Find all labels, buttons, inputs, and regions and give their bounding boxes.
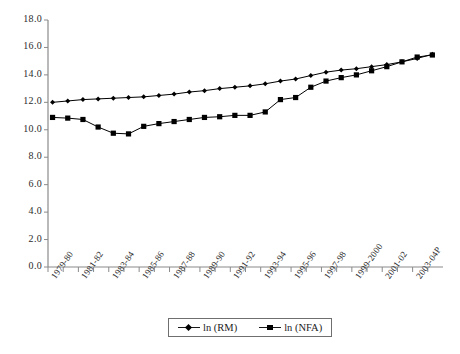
chart-legend: ln (RM) ln (NFA): [168, 318, 332, 337]
data-point-marker: [156, 121, 161, 126]
data-point-marker: [217, 114, 222, 119]
data-point-marker: [247, 113, 252, 118]
data-point-marker: [232, 113, 237, 118]
data-point-marker: [111, 131, 116, 136]
data-point-marker: [96, 96, 101, 101]
data-point-marker: [187, 117, 192, 122]
chart-container: 0.02.04.06.08.010.012.014.016.018.0 1979…: [0, 0, 460, 354]
y-tick-label: 6.0: [0, 178, 42, 189]
data-point-marker: [156, 93, 161, 98]
data-point-marker: [308, 85, 313, 90]
data-point-marker: [232, 85, 237, 90]
data-point-marker: [96, 124, 101, 129]
data-point-marker: [202, 88, 207, 93]
chart-axes: [48, 20, 443, 267]
data-point-marker: [126, 95, 131, 100]
legend-item-nfa[interactable]: ln (NFA): [259, 322, 322, 333]
data-point-marker: [278, 79, 283, 84]
y-tick-label: 12.0: [0, 95, 42, 106]
data-point-marker: [354, 72, 359, 77]
square-marker-icon: [259, 323, 281, 333]
data-point-marker: [141, 94, 146, 99]
data-point-marker: [80, 117, 85, 122]
data-point-marker: [50, 100, 55, 105]
data-point-marker: [339, 75, 344, 80]
y-tick-label: 18.0: [0, 13, 42, 24]
data-point-marker: [324, 70, 329, 75]
data-point-marker: [141, 124, 146, 129]
data-point-marker: [263, 109, 268, 114]
data-point-marker: [172, 92, 177, 97]
y-tick-label: 4.0: [0, 205, 42, 216]
y-tick-label: 0.0: [0, 260, 42, 271]
y-tick-label: 14.0: [0, 68, 42, 79]
series-nfa: [50, 52, 435, 136]
data-point-marker: [65, 116, 70, 121]
data-point-marker: [293, 77, 298, 82]
data-point-marker: [80, 97, 85, 102]
y-tick-label: 8.0: [0, 150, 42, 161]
data-point-marker: [248, 83, 253, 88]
data-point-marker: [202, 115, 207, 120]
legend-label-nfa: ln (NFA): [284, 322, 322, 333]
data-point-marker: [278, 97, 283, 102]
line-chart-plot: [0, 0, 460, 354]
data-point-marker: [293, 95, 298, 100]
legend-item-rm[interactable]: ln (RM): [178, 322, 237, 333]
data-point-marker: [187, 90, 192, 95]
data-point-marker: [430, 52, 435, 57]
data-point-marker: [308, 73, 313, 78]
data-point-marker: [50, 115, 55, 120]
data-point-marker: [111, 96, 116, 101]
data-point-marker: [263, 81, 268, 86]
data-point-marker: [126, 131, 131, 136]
y-tick-label: 16.0: [0, 40, 42, 51]
y-tick-label: 10.0: [0, 123, 42, 134]
data-point-marker: [369, 68, 374, 73]
legend-label-rm: ln (RM): [203, 322, 237, 333]
data-point-marker: [384, 64, 389, 69]
data-point-marker: [354, 66, 359, 71]
data-series-layer: [50, 52, 435, 137]
series-line: [53, 54, 433, 102]
data-point-marker: [323, 78, 328, 83]
series-line: [53, 55, 433, 134]
data-point-marker: [415, 54, 420, 59]
y-tick-label: 2.0: [0, 233, 42, 244]
data-point-marker: [339, 68, 344, 73]
diamond-marker-icon: [178, 323, 200, 333]
series-rm: [50, 52, 435, 105]
data-point-marker: [399, 59, 404, 64]
data-point-marker: [171, 119, 176, 124]
data-point-marker: [65, 98, 70, 103]
data-point-marker: [217, 86, 222, 91]
